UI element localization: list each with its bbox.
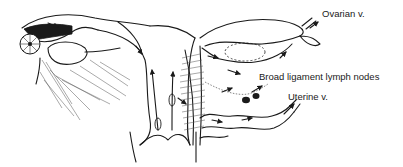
right-ovary-outline: [225, 43, 265, 61]
right-venous-plexus: [178, 46, 205, 145]
left-ovary: [48, 42, 120, 64]
left-fimbria: [20, 34, 40, 54]
ovarian-vein: [302, 18, 318, 29]
label-broad-ligament-lymph-nodes: Broad ligament lymph nodes: [259, 72, 379, 82]
lymph-node-1: [242, 97, 250, 103]
uterus: [98, 22, 196, 162]
label-ovarian-vein: Ovarian v.: [322, 9, 365, 19]
left-fallopian-tube: [22, 15, 150, 42]
anatomy-diagram: Ovarian v. Broad ligament lymph nodes Ut…: [0, 0, 403, 167]
lymph-node-2: [253, 93, 260, 99]
diagram-drawing: [0, 0, 403, 167]
broad-ligament-hatching: [36, 58, 130, 120]
label-uterine-vein: Uterine v.: [288, 92, 328, 102]
uterine-vessels: [136, 46, 175, 130]
uterine-vein: [200, 100, 300, 138]
